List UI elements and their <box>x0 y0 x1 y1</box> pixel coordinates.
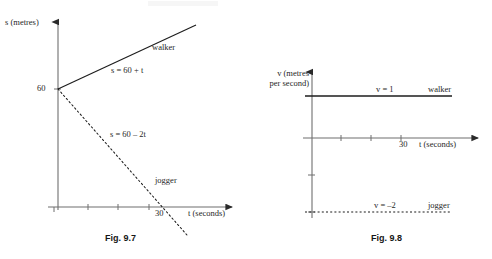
walker-eq-rhs-fig98: = 1 <box>380 84 393 94</box>
figure-panel: s (metres) 60 walker s = 60 + t s = 60 –… <box>0 0 492 259</box>
y-axis-label-fig97: s (metres) <box>5 18 39 28</box>
y-axis-symbol-fig98: v <box>277 68 281 78</box>
walker-series-label-fig97: walker <box>152 43 175 53</box>
jogger-eq-rhs-fig97: = 60 – 2 <box>113 129 143 139</box>
figure-caption-fig97: Fig. 9.7 <box>105 233 136 243</box>
walker-eq-var-fig97: t <box>141 65 143 75</box>
walker-equation-fig97: s = 60 + t <box>111 66 143 76</box>
y-tick-label-60-fig97: 60 <box>37 84 46 94</box>
x-axis-symbol-fig97: t <box>188 208 190 218</box>
x-axis-symbol-fig98: t <box>419 139 421 149</box>
y-axis-unit-fig97: (metres) <box>10 17 38 27</box>
x-axis-unit-fig98: (seconds) <box>424 139 457 149</box>
fig-9-8-series <box>305 96 452 212</box>
jogger-series-label-fig98: jogger <box>428 201 450 211</box>
walker-series-label-fig98: walker <box>428 85 451 95</box>
y-axis-symbol-fig97: s <box>5 17 8 27</box>
x-tick-label-30-fig97: 30 <box>155 209 164 219</box>
x-tick-label-30-fig98: 30 <box>399 140 408 150</box>
jogger-line-fig97 <box>58 89 187 235</box>
y-axis-unit-line2-fig98: per second) <box>270 78 309 88</box>
walker-eq-rhs-fig97: = 60 + <box>114 65 141 75</box>
figure-caption-fig98: Fig. 9.8 <box>371 233 402 243</box>
x-axis-label-fig97: t (seconds) <box>188 209 225 219</box>
x-axis-label-fig98: t (seconds) <box>419 140 456 150</box>
jogger-equation-fig97: s = 60 – 2t <box>110 130 146 140</box>
figures-vector-layer <box>0 0 492 259</box>
walker-equation-fig98: v = 1 <box>376 85 394 95</box>
walker-line-fig97 <box>58 25 196 89</box>
y-axis-label-fig98: v (metres per second) <box>257 69 309 89</box>
y-axis-unit-line1-fig98: (metres <box>284 68 310 78</box>
jogger-eq-var-fig97: t <box>144 129 146 139</box>
jogger-equation-fig98: v = –2 <box>374 201 396 211</box>
jogger-series-label-fig97: jogger <box>155 176 177 186</box>
x-axis-unit-fig97: (seconds) <box>193 208 226 218</box>
jogger-eq-rhs-fig98: = –2 <box>378 200 396 210</box>
